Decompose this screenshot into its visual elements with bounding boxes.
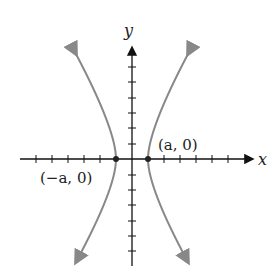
right-vertex-dot [145,156,151,162]
left-branch [76,54,116,262]
y-axis-label: y [123,21,134,40]
hyperbola-diagram: y x (a, 0) (−a, 0) [0,0,277,274]
x-axis-label: x [258,150,267,169]
x-axis [20,155,252,163]
y-axis [128,48,136,266]
left-vertex-label: (−a, 0) [40,169,92,187]
left-vertex-dot [113,156,119,162]
right-branch [148,54,188,262]
right-vertex-label: (a, 0) [158,136,198,154]
